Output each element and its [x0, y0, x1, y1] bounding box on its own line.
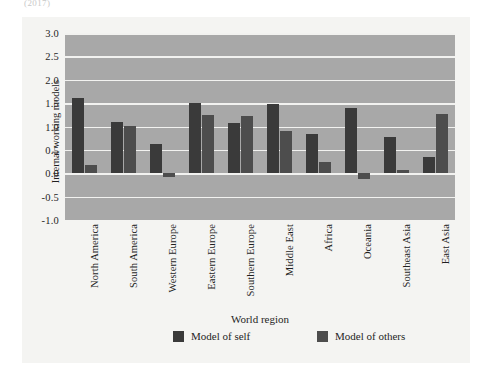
bar	[280, 131, 292, 173]
bar	[202, 115, 214, 173]
y-tick-label: 1.0	[45, 121, 59, 132]
x-tick-label: Middle East	[284, 224, 295, 276]
x-axis-title: World region	[65, 313, 455, 325]
bar	[397, 170, 409, 173]
bar	[72, 98, 84, 173]
bar	[358, 173, 370, 179]
x-tick-label: Eastern Europe	[206, 224, 217, 290]
legend-item[interactable]: Model of self	[173, 330, 250, 342]
x-tick-label: Africa	[323, 224, 334, 251]
bar	[111, 122, 123, 173]
bar	[319, 162, 331, 174]
legend-swatch-others-icon	[317, 331, 328, 342]
x-tick-label: South America	[128, 224, 139, 288]
legend-item[interactable]: Model of others	[317, 330, 405, 342]
legend-label: Model of self	[191, 330, 250, 342]
x-axis-tick-labels: North AmericaSouth AmericaWestern Europe…	[65, 224, 455, 312]
plot-area	[65, 33, 455, 220]
legend-swatch-self-icon	[173, 331, 184, 342]
y-tick-label: 2.5	[45, 51, 59, 62]
y-tick-label: -0.5	[42, 191, 59, 202]
bar	[85, 165, 97, 173]
gridline	[65, 197, 455, 199]
bar	[306, 134, 318, 174]
x-tick-label: North America	[89, 224, 100, 288]
x-tick-label: Southeast Asia	[401, 224, 412, 288]
x-tick-label: East Asia	[440, 224, 451, 264]
gridline	[65, 103, 455, 105]
bar	[189, 103, 201, 173]
bar	[436, 114, 448, 173]
figure-caption-fragment: (2017)	[24, 0, 50, 8]
bar	[345, 108, 357, 173]
x-tick-label: Southern Europe	[245, 224, 256, 296]
y-tick-label: 0.0	[45, 168, 59, 179]
bar	[163, 173, 175, 177]
y-tick-label: 3.0	[45, 28, 59, 39]
bar	[384, 137, 396, 173]
gridline	[65, 56, 455, 58]
legend-label: Model of others	[335, 330, 405, 342]
y-tick-label: 1.5	[45, 98, 59, 109]
y-tick-label: 0.5	[45, 144, 59, 155]
bar	[124, 126, 136, 174]
bar	[423, 157, 435, 173]
x-tick-label: Oceania	[362, 224, 373, 259]
bar	[150, 144, 162, 173]
gridline	[65, 33, 455, 35]
y-axis-tick-labels: 3.02.52.01.51.00.50.0-0.5-1.0	[22, 33, 63, 220]
zero-gridline	[65, 173, 455, 175]
bar	[267, 104, 279, 173]
bar	[228, 123, 240, 173]
gridline	[65, 80, 455, 82]
chart-legend: Model of selfModel of others	[65, 330, 455, 350]
bar	[241, 116, 253, 174]
y-tick-label: 2.0	[45, 74, 59, 85]
chart-figure: Internal working models 3.02.52.01.51.00…	[22, 17, 470, 363]
y-tick-label: -1.0	[42, 215, 59, 226]
x-tick-label: Western Europe	[167, 224, 178, 293]
